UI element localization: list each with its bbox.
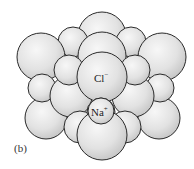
nacl-lattice-figure: Cl− Na+ (b) [0, 0, 194, 169]
panel-label: (b) [14, 142, 27, 154]
lattice-diagram: Cl− Na+ [0, 0, 194, 169]
